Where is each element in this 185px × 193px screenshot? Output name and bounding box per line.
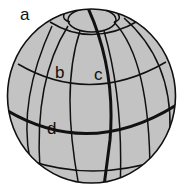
- label-b: b: [55, 64, 64, 81]
- globe-graphic: [0, 0, 185, 193]
- globe-diagram: a b c d: [0, 0, 185, 193]
- label-c: c: [94, 66, 103, 83]
- label-a: a: [20, 6, 29, 23]
- label-d: d: [47, 120, 56, 137]
